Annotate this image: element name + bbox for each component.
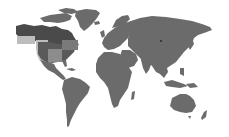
region-northeast: [62, 40, 78, 50]
world-map-svg: [0, 0, 229, 137]
region-central-us: [48, 49, 62, 62]
world-map: [0, 0, 229, 137]
region-western-pacific-overlay: [17, 36, 35, 44]
russia-marker: [160, 40, 162, 42]
